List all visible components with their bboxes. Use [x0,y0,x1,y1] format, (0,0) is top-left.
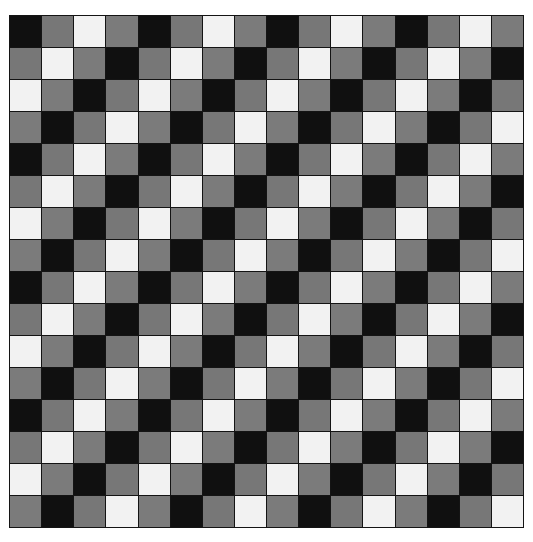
checkerboard-cell [460,464,491,495]
checkerboard-cell [396,208,427,239]
checkerboard-cell [203,112,234,143]
checkerboard-cell [492,272,523,303]
checkerboard-cell [396,16,427,47]
checkerboard-cell [10,80,41,111]
checkerboard-cell [299,16,330,47]
checkerboard-cell [74,48,105,79]
checkerboard-cell [396,144,427,175]
checkerboard-cell [139,48,170,79]
checkerboard-cell [492,240,523,271]
checkerboard-cell [299,208,330,239]
checkerboard-cell [74,368,105,399]
checkerboard-cell [331,272,362,303]
checkerboard-cell [171,48,202,79]
checkerboard-cell [10,144,41,175]
checkerboard-cell [363,208,394,239]
checkerboard-cell [492,16,523,47]
checkerboard-cell [428,464,459,495]
checkerboard-cell [235,336,266,367]
checkerboard-cell [331,176,362,207]
checkerboard-cell [428,144,459,175]
checkerboard-cell [42,496,73,527]
checkerboard-cell [267,496,298,527]
checkerboard-cell [396,400,427,431]
checkerboard-cell [203,304,234,335]
checkerboard-cell [331,432,362,463]
checkerboard-cell [106,16,137,47]
checkerboard-cell [106,464,137,495]
checkerboard-cell [139,400,170,431]
checkerboard-cell [363,304,394,335]
checkerboard-cell [396,272,427,303]
checkerboard-cell [460,400,491,431]
checkerboard-cell [396,496,427,527]
checkerboard-cell [492,336,523,367]
checkerboard-cell [299,336,330,367]
checkerboard-cell [235,176,266,207]
checkerboard-cell [74,464,105,495]
checkerboard-cell [363,432,394,463]
checkerboard-cell [460,80,491,111]
checkerboard-cell [42,464,73,495]
checkerboard-cell [106,368,137,399]
page-root [0,0,533,542]
checkerboard-cell [363,16,394,47]
checkerboard-cell [428,112,459,143]
checkerboard-cell [396,176,427,207]
checkerboard-cell [396,336,427,367]
checkerboard-cell [139,80,170,111]
checkerboard-cell [10,112,41,143]
checkerboard-cell [299,272,330,303]
checkerboard-cell [203,176,234,207]
checkerboard-cell [299,304,330,335]
checkerboard-cell [492,144,523,175]
checkerboard-cell [396,432,427,463]
checkerboard-cell [203,16,234,47]
checkerboard-cell [460,16,491,47]
checkerboard-cell [74,240,105,271]
checkerboard-cell [106,240,137,271]
checkerboard-cell [10,400,41,431]
checkerboard-cell [299,432,330,463]
checkerboard-cell [331,144,362,175]
checkerboard-cell [171,80,202,111]
checkerboard-cell [139,144,170,175]
checkerboard-cell [235,16,266,47]
checkerboard-cell [267,400,298,431]
checkerboard-cell [42,176,73,207]
checkerboard-cell [428,400,459,431]
checkerboard-cell [106,208,137,239]
checkerboard-cell [10,16,41,47]
checkerboard-cell [74,304,105,335]
checkerboard-cell [235,240,266,271]
checkerboard-cell [363,144,394,175]
checkerboard-cell [203,240,234,271]
checkerboard-cell [428,240,459,271]
checkerboard-cell [267,48,298,79]
checkerboard-cell [428,432,459,463]
checkerboard-cell [428,208,459,239]
checkerboard-cell [235,400,266,431]
checkerboard-cell [396,368,427,399]
checkerboard-cell [492,496,523,527]
checkerboard-cell [74,144,105,175]
checkerboard-cell [299,80,330,111]
checkerboard-cell [267,336,298,367]
checkerboard-cell [460,496,491,527]
checkerboard-cell [363,400,394,431]
checkerboard-cell [139,336,170,367]
checkerboard-cell [267,368,298,399]
checkerboard-cell [139,432,170,463]
checkerboard-cell [106,336,137,367]
checkerboard-cell [460,304,491,335]
checkerboard-cell [235,48,266,79]
checkerboard-cell [139,208,170,239]
checkerboard-cell [235,208,266,239]
checkerboard-cell [460,368,491,399]
checkerboard-cell [492,464,523,495]
checkerboard-cell [203,48,234,79]
checkerboard-cell [331,240,362,271]
checkerboard-cell [203,144,234,175]
checkerboard-cell [267,432,298,463]
checkerboard-cell [139,304,170,335]
